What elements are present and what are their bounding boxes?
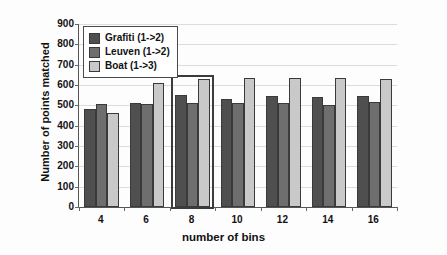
y-axis-tick-label: 300 [40, 141, 74, 151]
x-axis-tick-label: 4 [78, 214, 124, 225]
bar-chart-figure: Number of points matched 010020030040050… [0, 0, 447, 255]
y-axis-tick-label: 700 [40, 60, 74, 70]
x-axis-tick-labels: 46810121416 [0, 214, 447, 228]
x-tickmark [397, 207, 398, 211]
y-tickmark [75, 166, 79, 167]
legend-item-label: Grafiti (1->2) [105, 33, 164, 43]
y-axis-tick-label: 200 [40, 161, 74, 171]
x-axis-tick-label: 10 [214, 214, 260, 225]
x-tickmark [215, 207, 216, 211]
bar [141, 104, 153, 207]
y-tickmark [75, 126, 79, 127]
legend-swatch-icon [89, 33, 100, 44]
bar-group [357, 24, 392, 207]
y-axis-tick-label: 100 [40, 182, 74, 192]
y-tickmark [75, 105, 79, 106]
bar [312, 97, 324, 207]
y-axis-tick-label: 900 [40, 19, 74, 29]
bar [198, 79, 210, 207]
y-tickmark [75, 85, 79, 86]
x-tickmark [352, 207, 353, 211]
bar [107, 113, 119, 207]
legend-item-label: Boat (1->3) [105, 61, 157, 71]
bar [232, 103, 244, 207]
chart-legend: Grafiti (1->2) Leuven (1->2) Boat (1->3) [83, 26, 178, 78]
x-axis-tick-label: 8 [169, 214, 215, 225]
bar [153, 83, 165, 207]
y-tickmark [75, 65, 79, 66]
bar-group [175, 24, 210, 207]
legend-item-label: Leuven (1->2) [105, 47, 170, 57]
bar [357, 96, 369, 207]
legend-swatch-icon [89, 47, 100, 58]
x-tickmark [306, 207, 307, 211]
y-axis-tick-label: 400 [40, 121, 74, 131]
bar-group [312, 24, 347, 207]
y-tickmark [75, 146, 79, 147]
bar [187, 103, 199, 207]
y-axis-tick-label: 600 [40, 80, 74, 90]
bar [289, 78, 301, 207]
y-axis-tick-label: 500 [40, 100, 74, 110]
bar [244, 78, 256, 207]
legend-swatch-icon [89, 61, 100, 72]
x-axis-tick-label: 14 [305, 214, 351, 225]
bar [84, 109, 96, 207]
legend-item: Boat (1->3) [89, 59, 170, 73]
bar [130, 103, 142, 207]
x-tickmark [261, 207, 262, 211]
y-axis-title-container: Number of points matched [20, 14, 38, 209]
bar-group [266, 24, 301, 207]
legend-item: Grafiti (1->2) [89, 31, 170, 45]
y-tickmark [75, 187, 79, 188]
bar [221, 99, 233, 207]
y-axis-tick-label: 0 [40, 202, 74, 212]
bar [175, 95, 187, 207]
x-axis-tick-label: 16 [350, 214, 396, 225]
x-tickmark [79, 207, 80, 211]
x-axis-tick-label: 12 [259, 214, 305, 225]
x-axis-title: number of bins [0, 231, 447, 243]
bar [335, 78, 347, 207]
bar [96, 104, 108, 207]
y-tickmark [75, 44, 79, 45]
x-axis-tick-label: 6 [123, 214, 169, 225]
bar [323, 105, 335, 207]
x-tickmark [124, 207, 125, 211]
bar-group [221, 24, 256, 207]
bar [266, 96, 278, 207]
x-tickmark [170, 207, 171, 211]
y-axis-tick-label: 800 [40, 39, 74, 49]
bar [278, 103, 290, 207]
y-tickmark [75, 24, 79, 25]
bar [369, 102, 381, 207]
bar [380, 79, 392, 207]
legend-item: Leuven (1->2) [89, 45, 170, 59]
